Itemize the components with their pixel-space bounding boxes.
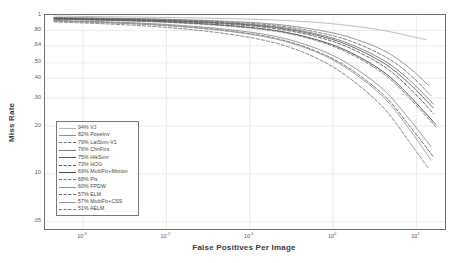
y-tick-label: .05 <box>20 217 41 223</box>
legend-line-swatch <box>59 206 76 212</box>
legend-item-label: 73% HOG <box>78 161 102 168</box>
legend-item-aelm: 51% AELM <box>59 205 135 212</box>
legend-line-swatch <box>59 169 76 175</box>
legend-item-label: 51% AELM <box>78 205 104 212</box>
y-tick-label: 1 <box>20 11 41 17</box>
x-axis-label: False Positives Per Image <box>144 243 344 252</box>
x-tick-label: 10-2 <box>153 231 177 239</box>
y-axis-label: Miss Rate <box>7 103 16 142</box>
legend-line-swatch <box>59 162 76 168</box>
legend-item-label: 69% MultiFtr+Motion <box>78 168 128 175</box>
x-tick-label: 10-1 <box>237 231 261 239</box>
legend-item-label: 94% VJ <box>78 124 96 131</box>
y-tick-label: .40 <box>20 74 41 80</box>
y-tick-label: .64 <box>20 41 41 47</box>
curve-multiftr-motion <box>54 19 436 124</box>
curve-latsvm-v1 <box>54 18 431 96</box>
legend-item-hog: 73% HOG <box>59 161 135 168</box>
legend-item-chnftrs: 76% ChnFtrs <box>59 146 135 153</box>
y-tick-label: .10 <box>20 169 41 175</box>
legend-item-label: 75% HikSvm <box>78 154 109 161</box>
legend-line-swatch <box>59 147 76 153</box>
legend-item-poseinv: 82% PoseInv <box>59 131 135 138</box>
legend-item-fpdw: 60% FPDW <box>59 183 135 190</box>
legend-item-label: 60% FPDW <box>78 183 106 190</box>
legend-line-swatch <box>59 176 76 182</box>
x-tick-label: 10-3 <box>70 231 94 239</box>
curve-pls <box>54 19 436 126</box>
y-tick-label: .80 <box>20 26 41 32</box>
legend-item-latsvm-v1: 79% LatSvm-V1 <box>59 139 135 146</box>
legend-line-swatch <box>59 199 76 205</box>
legend-item-label: 57% MultiFtr+CSS <box>78 198 122 205</box>
legend-item-elm: 57% ELM <box>59 191 135 198</box>
legend-item-label: 79% LatSvm-V1 <box>78 139 117 146</box>
legend-item-label: 76% ChnFtrs <box>78 146 109 153</box>
x-tick-label: 101 <box>403 231 427 239</box>
y-tick-label: .20 <box>20 122 41 128</box>
legend-line-swatch <box>59 154 76 160</box>
legend-item-label: 82% PoseInv <box>78 131 110 138</box>
legend-item-hiksvm: 75% HikSvm <box>59 154 135 161</box>
legend-line-swatch <box>59 139 76 145</box>
legend-item-multiftr-css: 57% MultiFtr+CSS <box>59 198 135 205</box>
y-tick-label: .30 <box>20 94 41 100</box>
legend-line-swatch <box>59 184 76 190</box>
legend-item-pls: 68% Pls <box>59 176 135 183</box>
legend-line-swatch <box>59 191 76 197</box>
chart-figure: Miss Rate .80.64.50.40.30.20.10.051 10-3… <box>0 0 455 263</box>
legend-item-label: 68% Pls <box>78 176 98 183</box>
legend-line-swatch <box>59 132 76 138</box>
y-tick-label: .50 <box>20 58 41 64</box>
x-tick-label: 100 <box>320 231 344 239</box>
legend-item-multiftr-motion: 69% MultiFtr+Motion <box>59 168 135 175</box>
legend-item-vj: 94% VJ <box>59 124 135 131</box>
chart-legend: 94% VJ82% PoseInv79% LatSvm-V176% ChnFtr… <box>56 121 139 216</box>
legend-line-swatch <box>59 125 76 131</box>
legend-item-label: 57% ELM <box>78 191 101 198</box>
